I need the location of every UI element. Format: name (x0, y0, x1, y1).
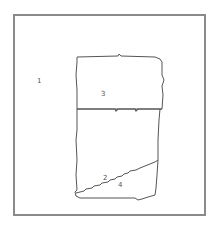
partition-diagram (0, 0, 224, 228)
region-1-label: 1 (37, 78, 41, 85)
region-3-outline (76, 54, 164, 109)
region-2-4-boundary (76, 160, 158, 193)
region-3-label: 3 (101, 91, 105, 98)
region-2-label: 2 (103, 175, 107, 182)
region-4-label: 4 (118, 182, 122, 189)
divider-line (77, 109, 162, 111)
